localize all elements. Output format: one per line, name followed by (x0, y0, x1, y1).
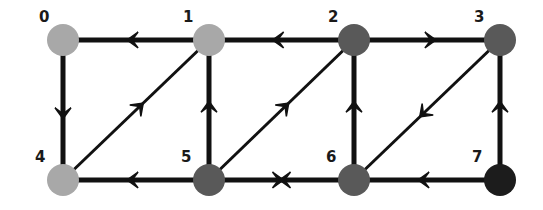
node-2: 2 (328, 8, 370, 56)
node-0: 0 (39, 8, 79, 56)
node-1: 1 (183, 8, 225, 56)
nodes-layer: 01234567 (35, 8, 516, 196)
node-7: 7 (472, 148, 516, 196)
directed-graph: 01234567 (0, 0, 543, 210)
edges-layer (63, 40, 500, 180)
node-label: 6 (326, 148, 336, 166)
node-circle (484, 164, 516, 196)
node-label: 2 (328, 8, 338, 26)
node-circle (338, 24, 370, 56)
node-circle (338, 164, 370, 196)
node-5: 5 (181, 148, 225, 196)
node-circle (47, 24, 79, 56)
node-label: 1 (183, 8, 193, 26)
node-label: 5 (181, 148, 191, 166)
node-3: 3 (474, 8, 516, 56)
node-circle (484, 24, 516, 56)
node-circle (193, 164, 225, 196)
node-label: 7 (472, 148, 482, 166)
node-label: 3 (474, 8, 484, 26)
node-circle (193, 24, 225, 56)
node-6: 6 (326, 148, 370, 196)
node-label: 4 (35, 148, 45, 166)
node-circle (47, 164, 79, 196)
node-4: 4 (35, 148, 79, 196)
node-label: 0 (39, 8, 49, 26)
